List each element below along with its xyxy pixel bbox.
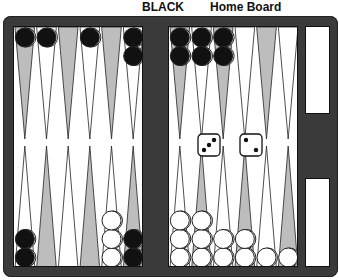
black-checker[interactable] xyxy=(37,28,58,47)
black-checker[interactable] xyxy=(15,28,36,47)
white-checker[interactable] xyxy=(235,248,256,267)
die-pip xyxy=(202,148,206,152)
outer-board[interactable] xyxy=(13,26,143,267)
player-label: BLACK xyxy=(142,0,184,14)
black-checker[interactable] xyxy=(170,28,191,47)
point-top-4[interactable] xyxy=(102,27,122,139)
black-checker[interactable] xyxy=(80,28,101,47)
white-checker[interactable] xyxy=(102,248,123,267)
white-checker[interactable] xyxy=(102,211,123,230)
white-checker[interactable] xyxy=(214,230,235,249)
point-top-2[interactable] xyxy=(58,27,78,139)
bear-off-tray-bottom[interactable] xyxy=(305,178,330,267)
black-checker[interactable] xyxy=(192,47,213,66)
die-left[interactable] xyxy=(197,133,221,157)
bar[interactable] xyxy=(143,26,168,267)
black-checker[interactable] xyxy=(192,28,213,47)
die-pip xyxy=(207,143,211,147)
white-checker[interactable] xyxy=(192,211,213,230)
point-bottom-1[interactable] xyxy=(37,146,57,267)
white-checker[interactable] xyxy=(235,230,256,249)
black-checker[interactable] xyxy=(214,28,235,47)
white-checker[interactable] xyxy=(170,248,191,267)
point-top-5[interactable] xyxy=(278,27,298,139)
bear-off-tray-top[interactable] xyxy=(305,26,330,114)
white-checker[interactable] xyxy=(192,248,213,267)
point-top-3[interactable] xyxy=(235,27,255,139)
black-checker[interactable] xyxy=(124,230,143,249)
home-board[interactable] xyxy=(168,26,298,267)
white-checker[interactable] xyxy=(170,211,191,230)
point-bottom-2[interactable] xyxy=(58,146,78,267)
die-pip xyxy=(244,138,248,142)
black-checker[interactable] xyxy=(170,47,191,66)
white-checker[interactable] xyxy=(257,248,278,267)
point-top-4[interactable] xyxy=(257,27,277,139)
home-board-points[interactable] xyxy=(169,27,298,267)
die-pip xyxy=(212,138,216,142)
die-right[interactable] xyxy=(239,133,263,157)
home-board-label: Home Board xyxy=(210,0,281,14)
black-checker[interactable] xyxy=(15,248,36,267)
black-checker[interactable] xyxy=(124,248,143,267)
white-checker[interactable] xyxy=(102,230,123,249)
black-checker[interactable] xyxy=(124,47,143,66)
point-bottom-3[interactable] xyxy=(80,146,100,267)
white-checker[interactable] xyxy=(170,230,191,249)
black-checker[interactable] xyxy=(124,28,143,47)
die-pip xyxy=(254,148,258,152)
white-checker[interactable] xyxy=(192,230,213,249)
white-checker[interactable] xyxy=(214,248,235,267)
black-checker[interactable] xyxy=(214,47,235,66)
outer-board-points[interactable] xyxy=(14,27,143,267)
white-checker[interactable] xyxy=(279,248,298,267)
black-checker[interactable] xyxy=(15,230,36,249)
